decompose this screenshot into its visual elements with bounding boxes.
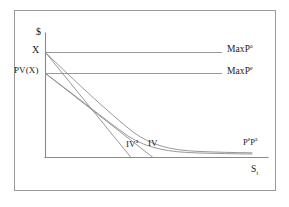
max-put-european-superscript: e — [250, 65, 253, 71]
figure-root: $ X PV(X) MaxPa MaxPe IVa IV PePa St — [0, 0, 289, 207]
plot-canvas — [0, 0, 289, 207]
put-price-american-superscript: a — [255, 136, 257, 142]
strike-price-label: X — [32, 45, 39, 55]
y-axis-label: $ — [36, 27, 41, 37]
put-prices-label: PePa — [243, 138, 258, 147]
max-put-american-text: MaxP — [227, 44, 250, 54]
present-value-strike-text: PV(X) — [14, 65, 39, 75]
intrinsic-value-american-superscript: a — [136, 138, 139, 144]
intrinsic-value-european-label: IV — [148, 139, 158, 148]
max-put-european-label: MaxPe — [227, 67, 253, 77]
max-put-american-label: MaxPa — [227, 45, 253, 55]
x-axis-label-subscript: t — [256, 170, 258, 176]
present-value-strike-label: PV(X) — [14, 66, 39, 75]
intrinsic-value-american-line — [46, 53, 132, 158]
x-axis-label: St — [251, 165, 258, 175]
max-put-american-superscript: a — [250, 43, 253, 49]
max-put-european-text: MaxP — [227, 66, 250, 76]
intrinsic-value-american-label: IVa — [126, 140, 138, 149]
intrinsic-value-american-text: IV — [126, 139, 136, 149]
